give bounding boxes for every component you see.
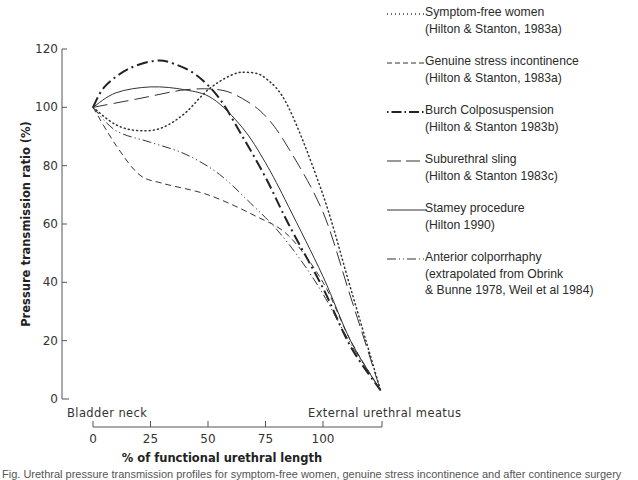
y-tick-label: 80 <box>43 159 58 173</box>
solid-line-swatch-icon <box>387 208 427 212</box>
series-line-stamey-procedure <box>93 87 381 390</box>
legend-source: (Hilton & Stanton, 1983a) <box>425 21 637 38</box>
dashed-line-swatch-icon <box>387 61 427 65</box>
dotted-line-swatch-icon <box>387 12 427 16</box>
legend-label: Burch Colposuspension <box>425 102 637 119</box>
legend-item-stamey: Stamey procedure (Hilton 1990) <box>425 200 637 249</box>
series-line-anterior-colporrhaphy <box>93 107 381 390</box>
x-axis: 0255075100 <box>89 421 382 446</box>
legend-item-burch: Burch Colposuspension (Hilton & Stanton … <box>425 102 637 151</box>
legend-label: Stamey procedure <box>425 200 637 217</box>
bold-dash-dot-swatch-icon <box>387 110 427 114</box>
legend: Symptom-free women (Hilton & Stanton, 19… <box>425 4 637 309</box>
x-tick-label: 100 <box>312 432 335 446</box>
x-axis-title: % of functional urethral length <box>122 451 322 465</box>
series-line-genuine-stress-incontinence <box>93 107 381 390</box>
x-tick-label: 50 <box>200 432 215 446</box>
legend-source: (Hilton & Stanton 1983b) <box>425 119 637 136</box>
x-tick-label: 75 <box>258 432 273 446</box>
legend-label: Suburethral sling <box>425 151 637 168</box>
dash-dot-dot-swatch-icon <box>387 257 427 261</box>
legend-source: (extrapolated from Obrink <box>425 266 637 283</box>
legend-item-suburethral-sling: Suburethral sling (Hilton & Stanton 1983… <box>425 151 637 200</box>
x-tick-label: 25 <box>143 432 158 446</box>
y-axis: 020406080100120 <box>35 42 69 406</box>
y-tick-label: 40 <box>43 275 58 289</box>
legend-label: Symptom-free women <box>425 4 637 21</box>
external-urethral-meatus-label: External urethral meatus <box>308 406 461 420</box>
bladder-neck-label: Bladder neck <box>67 406 147 420</box>
y-tick-label: 20 <box>43 334 58 348</box>
legend-source: (Hilton & Stanton 1983c) <box>425 168 637 185</box>
y-tick-label: 120 <box>35 42 58 56</box>
legend-item-genuine-stress-incontinence: Genuine stress incontinence (Hilton & St… <box>425 53 637 102</box>
y-axis-title: Pressure transmission ratio (%) <box>19 121 33 327</box>
legend-source: (Hilton & Stanton, 1983a) <box>425 70 637 87</box>
legend-item-anterior-colporrhaphy: Anterior colporrhaphy (extrapolated from… <box>425 249 637 309</box>
y-tick-label: 100 <box>35 100 58 114</box>
legend-source-cont: & Bunne 1978, Weil et al 1984) <box>425 282 637 299</box>
series-layer <box>93 60 381 390</box>
series-line-burch-colposuspension <box>93 60 381 390</box>
y-tick-label: 60 <box>43 217 58 231</box>
legend-label: Anterior colporrhaphy <box>425 249 637 266</box>
legend-item-symptom-free: Symptom-free women (Hilton & Stanton, 19… <box>425 4 637 53</box>
legend-source: (Hilton 1990) <box>425 217 637 234</box>
y-tick-label: 0 <box>50 392 58 406</box>
long-dash-swatch-icon <box>387 159 427 163</box>
series-line-symptom-free-women <box>93 72 381 390</box>
x-tick-label: 0 <box>89 432 97 446</box>
figure-caption: Fig. Urethral pressure transmission prof… <box>2 468 621 480</box>
legend-label: Genuine stress incontinence <box>425 53 637 70</box>
